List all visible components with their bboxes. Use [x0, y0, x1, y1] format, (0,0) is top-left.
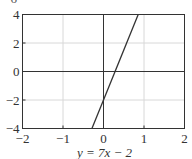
y-tick-label: −2 — [6, 93, 20, 108]
x-tick-label: −1 — [56, 131, 70, 146]
zero-axes — [23, 15, 185, 129]
y-tick-label: 0 — [13, 64, 20, 79]
y-tick-label: 4 — [13, 7, 20, 22]
x-tick-label: 2 — [181, 131, 188, 146]
x-tick-label: 0 — [100, 131, 107, 146]
equation-caption: y = 7x − 2 — [75, 145, 133, 159]
y-tick-label: 2 — [13, 36, 20, 51]
x-tick-label: −2 — [16, 131, 30, 146]
line-chart: −4−2024 −2−1012 y = 7x − 2 — [0, 0, 192, 159]
x-tick-label: 1 — [141, 131, 148, 146]
